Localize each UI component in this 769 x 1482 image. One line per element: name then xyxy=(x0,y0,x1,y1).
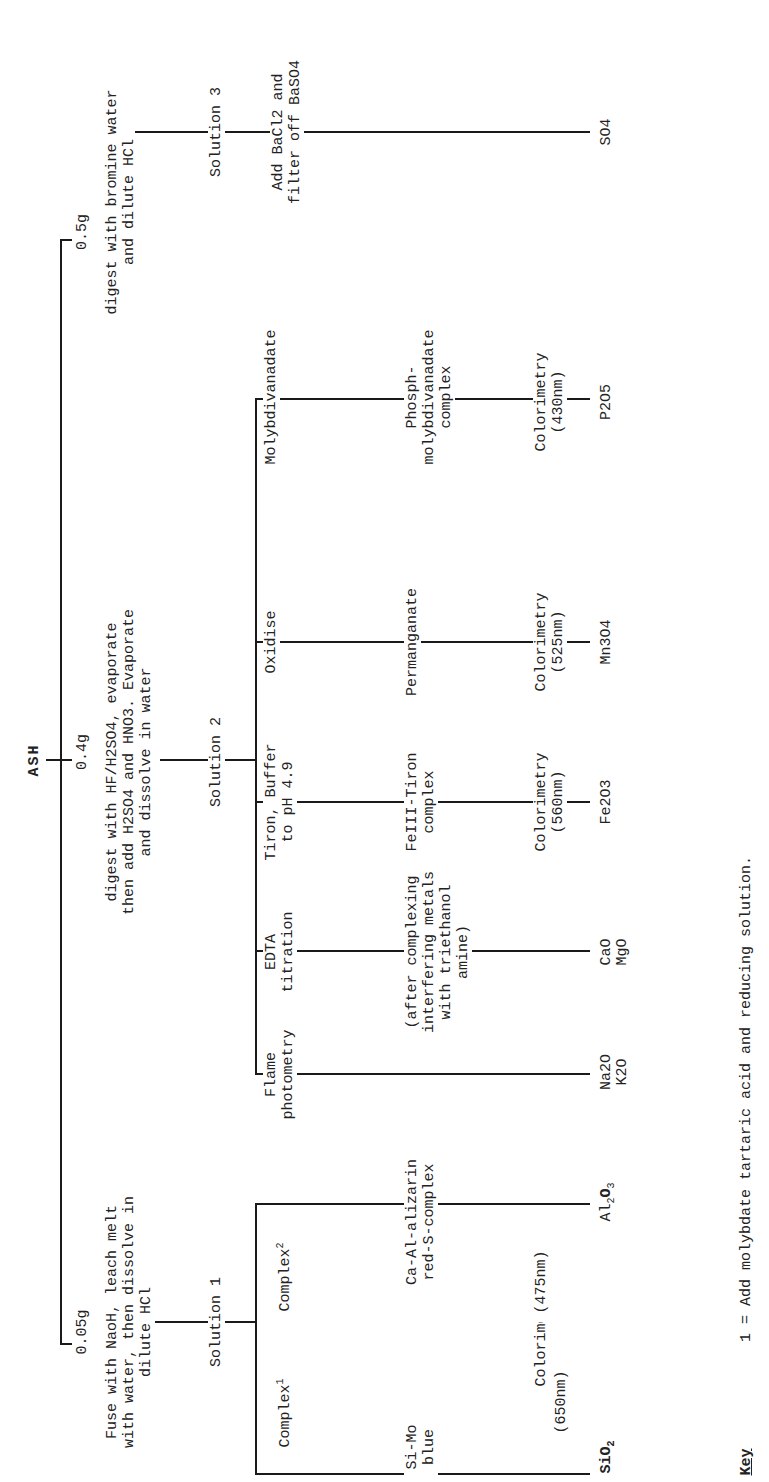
ca-al-alizarin-line2: red-S-complex xyxy=(421,1142,438,1302)
product-k2o: K2O xyxy=(614,1047,631,1097)
molyb-measure-1: Colorimetry xyxy=(533,342,550,462)
flowchart-canvas: ASH 0.05g Fuse with NaoH, leach melt wit… xyxy=(0,0,769,1482)
si-wavelength: (650nm) xyxy=(553,1362,570,1442)
branch3-line xyxy=(135,131,590,133)
product-fe2o3: Fe2O3 xyxy=(598,772,615,832)
branch1-bracket xyxy=(255,1203,257,1475)
branch3-mass: 0.5g xyxy=(74,202,91,262)
oxidise-label: Oxidise xyxy=(263,592,280,692)
flame-label-2: photometry xyxy=(280,1027,297,1122)
root-stem xyxy=(46,759,60,761)
tiron-measure-2: (560nm) xyxy=(550,742,567,862)
molyb-detail-2: molybdivanadate xyxy=(421,322,438,472)
product-na2o: Na2O xyxy=(598,1047,615,1097)
product-p2o5: P2O5 xyxy=(598,372,615,432)
branch3-reagent-2: filter off BaSO4 xyxy=(287,52,304,212)
main-bracket-left-tick xyxy=(60,1343,72,1345)
product-mgo: MgO xyxy=(614,927,631,977)
branch2-mass: 0.4g xyxy=(74,722,91,782)
branch1-solution: Solution 1 xyxy=(208,1262,225,1382)
product-mn3o4: Mn3O4 xyxy=(598,612,615,672)
edta-label-1: EDTA xyxy=(263,902,280,1002)
oxidise-measure-1: Colorimetry xyxy=(533,582,550,702)
tiron-detail-1: FeIII-Tiron xyxy=(404,742,421,862)
branch2-solution: Solution 2 xyxy=(208,702,225,822)
tiron-label-2: to pH 4.9 xyxy=(280,737,297,867)
branch3-procedure-line2: and dilute HCl xyxy=(121,92,138,312)
branch2-procedure-line3: and dissolve in water xyxy=(138,642,155,882)
edta-label-2: titration xyxy=(280,902,297,1002)
main-bracket-right-tick xyxy=(60,239,72,241)
ca-al-alizarin-line1: Ca-Al-alizarin xyxy=(404,1142,421,1302)
main-bracket xyxy=(60,239,62,1345)
flame-line xyxy=(255,1073,590,1075)
root-label: ASH xyxy=(26,740,43,780)
molyb-measure-2: (430nm) xyxy=(550,342,567,462)
main-bracket-mid-tick xyxy=(60,759,72,761)
tiron-label-1: Tiron, Buffer xyxy=(263,737,280,867)
branch3-procedure-line1: digest with bromine water xyxy=(104,72,121,332)
tiron-measure-1: Colorimetry xyxy=(533,742,550,862)
molyb-detail-1: Phosph- xyxy=(404,322,421,472)
tiron-detail-2: complex xyxy=(421,742,438,862)
branch1-procedure-line2: with water, then dissolve in xyxy=(121,1172,138,1472)
flame-label-1: Flame xyxy=(263,1027,280,1122)
branch1-stem xyxy=(155,1321,255,1323)
branch2-procedure-line1: digest with HF/H2SO4, evaporate xyxy=(104,582,121,942)
product-sio2: SiO2 xyxy=(598,1432,620,1482)
edta-detail-1: (after complexing xyxy=(404,867,421,1037)
branch3-solution: Solution 3 xyxy=(208,72,225,192)
si-mo-blue-line2: blue xyxy=(421,1412,438,1482)
si-mo-blue-line1: Si-Mo xyxy=(404,1412,421,1482)
al-wavelength: (475nm) xyxy=(533,1242,550,1322)
branch3-reagent-1: Add BaCl2 and xyxy=(270,52,287,212)
edta-detail-2: interfering metals xyxy=(421,867,438,1037)
branch2-procedure-line2: then add H2SO4 and HNO3. Evaporate xyxy=(121,582,138,942)
molyb-label: Molybdivanadate xyxy=(263,327,280,467)
key-title: Key xyxy=(738,1442,755,1482)
branch2-bracket xyxy=(255,398,257,1075)
edta-detail-3: with triethanol xyxy=(438,867,455,1037)
key-note: 1 = Add molybdate tartaric acid and redu… xyxy=(738,822,755,1342)
product-al2o3: Al2O3 xyxy=(598,1172,620,1232)
product-so4: SO4 xyxy=(598,102,615,162)
branch1-procedure-line3: dilute HCl xyxy=(138,1272,155,1392)
complex1-label: Complex1 xyxy=(272,1358,294,1468)
branch1-procedure-line1: Fuse with NaoH, leach melt xyxy=(104,1172,121,1472)
edta-detail-4: amine) xyxy=(455,867,472,1037)
oxidise-measure-2: (525nm) xyxy=(550,582,567,702)
product-cao: CaO xyxy=(598,927,615,977)
branch1-mass: 0.05g xyxy=(74,1302,91,1362)
molyb-detail-3: complex xyxy=(438,322,455,472)
complex2-label: Complex2 xyxy=(272,1222,294,1332)
oxidise-detail: Permanganate xyxy=(404,577,421,707)
